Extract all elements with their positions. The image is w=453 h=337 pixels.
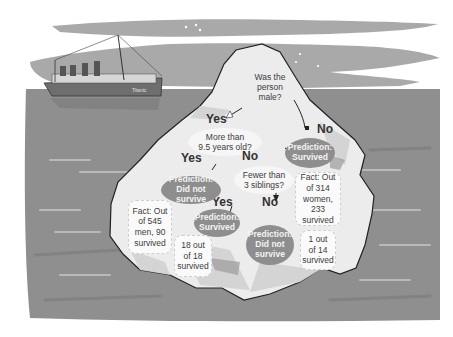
age-yes-label: Yes bbox=[181, 152, 202, 166]
prediction-boy-few-siblings-survived: Prediction:Survived bbox=[194, 209, 240, 237]
fact-women: Fact: Outof 314women, 233survived bbox=[295, 172, 341, 226]
prediction-boy-many-siblings-not-survived: Prediction:Did notsurvive bbox=[246, 225, 294, 265]
siblings-no-label: No bbox=[262, 196, 278, 210]
question-siblings: Fewer than3 siblings? bbox=[234, 166, 294, 194]
root-yes-label: Yes bbox=[206, 113, 227, 127]
question-root: Was thepersonmale? bbox=[240, 64, 300, 110]
root-no-label: No bbox=[317, 123, 333, 137]
illustration: Titanic bbox=[0, 0, 453, 337]
prediction-female-survived: Prediction:Survived bbox=[285, 138, 335, 168]
fact-1-of-14: 1 outof 14survived bbox=[300, 230, 336, 270]
fact-18-of-18: 18 outof 18survived bbox=[174, 235, 212, 277]
fact-men: Fact: Outof 545men, 90survived bbox=[128, 200, 172, 254]
age-no-label: No bbox=[242, 150, 258, 164]
prediction-adult-male-not-survived: Prediction:Did not survive bbox=[161, 176, 221, 204]
svg-text:Titanic: Titanic bbox=[132, 87, 147, 93]
background-scene: Titanic bbox=[0, 0, 453, 337]
